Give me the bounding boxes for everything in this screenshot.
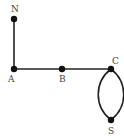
graph-diagram: N A B C S <box>0 0 124 140</box>
node-a <box>11 66 17 72</box>
label-n: N <box>11 4 19 14</box>
label-b: B <box>59 74 66 84</box>
node-n <box>11 16 17 22</box>
node-s <box>108 117 114 123</box>
edge-c-s-right <box>111 69 124 120</box>
label-a: A <box>7 74 15 84</box>
node-c <box>108 66 114 72</box>
label-s: S <box>108 126 114 136</box>
label-c: C <box>112 56 119 66</box>
edge-c-s-left <box>98 69 111 120</box>
node-b <box>59 66 65 72</box>
